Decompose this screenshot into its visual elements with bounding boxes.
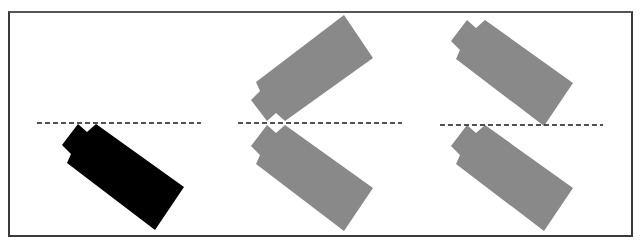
panel-translation: [440, 20, 603, 231]
panel-reflection: [238, 15, 402, 231]
translated-block-upper: [451, 20, 573, 126]
diagram-stage: [0, 0, 644, 249]
panel-original: [37, 123, 201, 230]
diagram-canvas: [0, 0, 644, 249]
image-block-lower: [251, 125, 373, 231]
original-block: [62, 124, 184, 230]
reflected-block-upper: [251, 15, 373, 121]
image-block-lower: [451, 125, 573, 231]
